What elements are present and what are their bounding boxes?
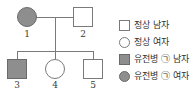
open-circle-icon xyxy=(119,37,130,48)
individual-2-label: 2 xyxy=(73,29,93,39)
legend-label-normal-male: 정상 남자 xyxy=(134,20,169,31)
individual-2-symbol-normal-male xyxy=(73,7,93,27)
legend-item-affected-female: 유전병 ㉠ 여자 xyxy=(119,68,195,85)
pedigree-chart: 1 2 3 4 5 xyxy=(0,0,115,91)
legend: 정상 남자 정상 여자 유전병 ㉠ 남자 유전병 ㉠ 여자 xyxy=(119,17,195,85)
individual-4-label: 4 xyxy=(45,80,65,90)
open-square-icon xyxy=(119,20,130,31)
pedigree-figure: 1 2 3 4 5 정상 남자 정상 여자 xyxy=(0,0,195,91)
sibling-drop-line-4 xyxy=(55,51,56,59)
sibling-drop-line-3 xyxy=(17,51,18,59)
individual-4-symbol-normal-female xyxy=(45,59,65,79)
legend-item-affected-male: 유전병 ㉠ 남자 xyxy=(119,51,195,68)
individual-5-label: 5 xyxy=(83,80,103,90)
individual-1-label: 1 xyxy=(17,29,37,39)
legend-item-normal-female: 정상 여자 xyxy=(119,34,195,51)
sibling-drop-line-5 xyxy=(93,51,94,59)
legend-label-normal-female: 정상 여자 xyxy=(134,37,169,48)
filled-circle-icon xyxy=(119,71,130,82)
filled-square-icon xyxy=(119,54,130,65)
legend-item-normal-male: 정상 남자 xyxy=(119,17,195,34)
individual-5-symbol-normal-male xyxy=(83,59,103,79)
individual-3-symbol-affected-male xyxy=(7,59,27,79)
legend-label-affected-male: 유전병 ㉠ 남자 xyxy=(134,54,189,65)
individual-3-label: 3 xyxy=(7,80,27,90)
individual-1-symbol-affected-female xyxy=(17,7,37,27)
descent-line xyxy=(55,17,56,51)
legend-label-affected-female: 유전병 ㉠ 여자 xyxy=(134,71,189,82)
